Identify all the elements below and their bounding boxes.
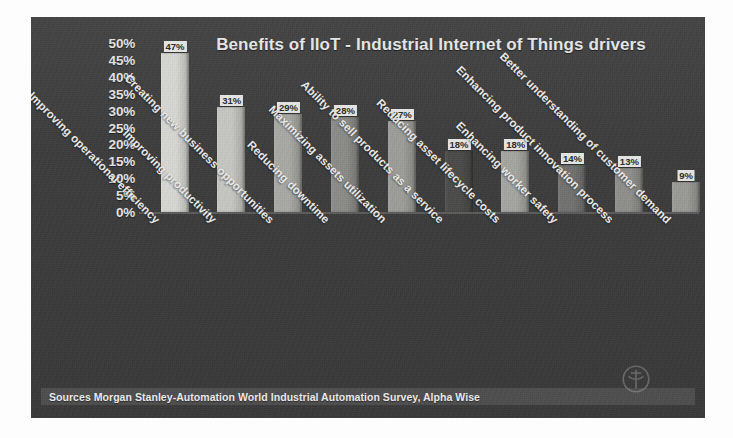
circular-logo-watermark: [619, 362, 653, 396]
bar-value-label: 31%: [220, 95, 243, 106]
axis-baseline: [139, 212, 699, 214]
plot-area: 50%45%40%35%30%25%20%15%10%5%0% 47%31%29…: [31, 17, 705, 418]
y-axis-tick-label: 30%: [73, 103, 135, 118]
y-axis-tick-label: 50%: [73, 36, 135, 51]
bar-value-label: 47%: [163, 41, 186, 52]
bar-value-label: 14%: [561, 153, 584, 164]
y-axis-tick-label: 45%: [73, 52, 135, 67]
y-axis-tick-label: 0%: [73, 205, 135, 220]
chart-panel: Benefits of IIoT - Industrial Internet o…: [31, 17, 705, 418]
page-canvas: Benefits of IIoT - Industrial Internet o…: [0, 0, 733, 438]
y-axis-tick-label: 35%: [73, 86, 135, 101]
bar-value-label: 9%: [677, 170, 695, 181]
bar[interactable]: 9%: [672, 182, 700, 212]
source-note: Sources Morgan Stanley-Automation World …: [49, 391, 480, 403]
